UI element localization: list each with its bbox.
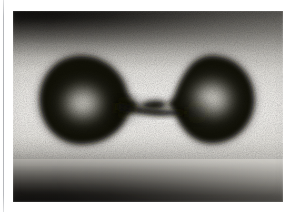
droplet-vector (13, 11, 283, 202)
droplet-highlights (58, 77, 237, 124)
page-edge-rule (3, 0, 4, 212)
droplet-photograph (13, 11, 283, 202)
droplet-silhouette (13, 11, 283, 202)
page-canvas (0, 0, 304, 212)
